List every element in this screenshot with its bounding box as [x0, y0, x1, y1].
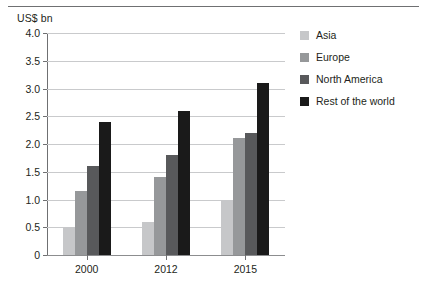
chart-figure: US$ bn 00.51.01.52.02.53.03.54.0 2000201… — [0, 0, 427, 282]
bars-layer — [47, 33, 285, 255]
header-divider — [8, 6, 419, 7]
plot-inner: 00.51.01.52.02.53.03.54.0 200020122015 — [47, 33, 285, 255]
legend-swatch-icon — [300, 53, 309, 62]
legend-label: Europe — [316, 52, 350, 63]
legend-swatch-icon — [300, 97, 309, 106]
x-axis-tick-label: 2015 — [234, 263, 257, 275]
bar — [166, 155, 178, 255]
y-axis-tick-label: 2.5 — [25, 110, 40, 122]
legend-item: North America — [300, 68, 424, 90]
y-axis-tick — [43, 255, 47, 256]
legend-label: North America — [316, 74, 383, 85]
bar — [142, 222, 154, 255]
legend-label: Asia — [316, 30, 336, 41]
bar — [221, 200, 233, 256]
x-axis-tick-label: 2012 — [154, 263, 177, 275]
legend-item: Rest of the world — [300, 90, 424, 112]
bar — [99, 122, 111, 255]
legend-label: Rest of the world — [316, 96, 395, 107]
y-axis-unit-label: US$ bn — [17, 12, 53, 24]
y-axis-tick-label: 1.0 — [25, 194, 40, 206]
bar — [63, 227, 75, 255]
legend-item: Europe — [300, 46, 424, 68]
bar — [154, 177, 166, 255]
x-axis-tick — [245, 255, 246, 260]
y-axis-tick-label: 0 — [34, 249, 40, 261]
bar — [178, 111, 190, 255]
y-axis-tick-label: 4.0 — [25, 27, 40, 39]
bar — [257, 83, 269, 255]
x-axis-tick-label: 2000 — [75, 263, 98, 275]
y-axis-tick-label: 1.5 — [25, 166, 40, 178]
y-axis-tick-label: 0.5 — [25, 221, 40, 233]
x-axis-tick — [87, 255, 88, 260]
bar — [233, 138, 245, 255]
bar — [75, 191, 87, 255]
legend-swatch-icon — [300, 75, 309, 84]
legend-swatch-icon — [300, 31, 309, 40]
chart-legend: AsiaEuropeNorth AmericaRest of the world — [300, 24, 424, 112]
x-axis-tick — [166, 255, 167, 260]
y-axis-tick-label: 3.5 — [25, 55, 40, 67]
legend-item: Asia — [300, 24, 424, 46]
bar — [245, 133, 257, 255]
bar — [87, 166, 99, 255]
y-axis-tick-label: 2.0 — [25, 138, 40, 150]
plot-area: 00.51.01.52.02.53.03.54.0 200020122015 — [47, 33, 285, 255]
y-axis-tick-label: 3.0 — [25, 83, 40, 95]
